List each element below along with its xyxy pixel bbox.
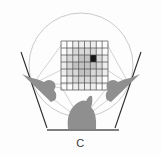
grid-cell xyxy=(102,55,108,62)
subject-right-body xyxy=(106,74,140,102)
grid-cell xyxy=(90,83,96,90)
figure-canvas xyxy=(0,0,161,156)
grid-cell xyxy=(79,41,85,48)
grid-cell xyxy=(85,41,91,48)
grid-cell xyxy=(96,69,102,76)
grid-cell xyxy=(67,48,73,55)
grid-cell xyxy=(102,69,108,76)
subject-left-body xyxy=(22,74,56,102)
grid-cell xyxy=(79,83,85,90)
grid-cell xyxy=(79,76,85,83)
subject-bottom xyxy=(68,96,96,129)
grid-cell xyxy=(67,62,73,69)
grid-cell xyxy=(73,69,79,76)
grid-cell xyxy=(73,62,79,69)
grid-cell xyxy=(61,55,67,62)
grid-cell xyxy=(79,55,85,62)
grid-cell xyxy=(67,55,73,62)
grid-cell xyxy=(96,62,102,69)
grid-cell xyxy=(67,69,73,76)
figure-panel-c: C xyxy=(0,0,161,156)
grid-cell xyxy=(90,62,96,69)
sight-line xyxy=(107,44,129,84)
grid-cell xyxy=(73,55,79,62)
grid-cell xyxy=(79,69,85,76)
grid-cell xyxy=(96,48,102,55)
subject-left xyxy=(21,52,56,128)
grid-cell xyxy=(96,55,102,62)
sight-line xyxy=(33,44,62,84)
grid-cell xyxy=(102,62,108,69)
subject-right xyxy=(106,52,141,128)
grid-cell xyxy=(61,69,67,76)
grid-cell xyxy=(73,41,79,48)
grid-cell xyxy=(73,83,79,90)
grid-cell xyxy=(73,48,79,55)
grid-cell xyxy=(90,41,96,48)
grid-cell xyxy=(85,76,91,83)
grid-cell xyxy=(85,83,91,90)
panel-label: C xyxy=(0,136,161,150)
grid-cell xyxy=(85,69,91,76)
grid-cell xyxy=(96,76,102,83)
grid-cell xyxy=(90,76,96,83)
grid-cell xyxy=(73,76,79,83)
subject-bottom-body xyxy=(68,96,96,129)
grid-cell xyxy=(61,62,67,69)
grid-cell xyxy=(85,48,91,55)
grid-cell-highlight xyxy=(90,55,96,62)
grid-cell xyxy=(79,62,85,69)
grid-cell xyxy=(67,76,73,83)
grid-cell xyxy=(79,48,85,55)
grid-cell xyxy=(85,55,91,62)
grid-cell xyxy=(90,69,96,76)
grid-cell xyxy=(90,48,96,55)
grid-cell xyxy=(85,62,91,69)
